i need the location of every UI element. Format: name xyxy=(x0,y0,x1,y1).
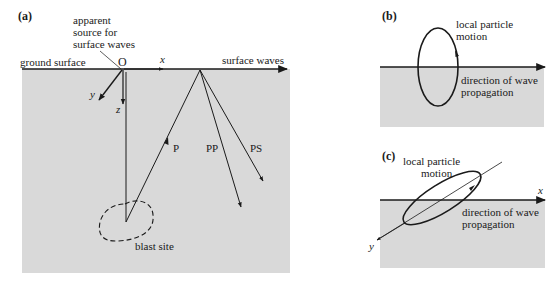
panel-a: (a) apparent source for surface waves gr… xyxy=(18,9,290,273)
motion-label-b-line2: motion xyxy=(456,30,488,42)
source-label-line1: apparent xyxy=(73,14,111,26)
origin-label: O xyxy=(118,55,127,69)
direction-label-c-line2: propagation xyxy=(462,218,515,230)
blast-site-label: blast site xyxy=(135,240,174,252)
z-axis-label: z xyxy=(115,103,121,115)
panel-a-label: (a) xyxy=(18,9,32,23)
direction-label-b-line2: propagation xyxy=(461,86,514,98)
motion-label-c-line1: local particle xyxy=(403,155,460,167)
panel-c: (c) x y local particle motion direction … xyxy=(368,149,545,268)
panel-c-label: (c) xyxy=(382,149,395,163)
source-label-line2: source for xyxy=(73,26,118,38)
motion-label-b-line1: local particle xyxy=(456,18,513,30)
panel-b-label: (b) xyxy=(382,9,397,23)
panel-b: (b) local particle motion direction of w… xyxy=(380,9,545,127)
x-axis-label-c: x xyxy=(537,184,543,196)
ray-pp-label: PP xyxy=(206,142,218,154)
ray-ps-label: PS xyxy=(250,142,262,154)
seismic-wave-diagram: (a) apparent source for surface waves gr… xyxy=(0,0,558,283)
motion-label-c-line2: motion xyxy=(421,167,453,179)
direction-label-b-line1: direction of wave xyxy=(461,74,538,86)
y-axis-label: y xyxy=(89,88,95,100)
y-axis-label-c: y xyxy=(368,240,374,252)
direction-label-c-line1: direction of wave xyxy=(462,206,539,218)
ground-surface-label: ground surface xyxy=(20,56,86,68)
source-label-line3: surface waves xyxy=(73,38,135,50)
x-axis-label: x xyxy=(159,53,165,65)
surface-waves-label: surface waves xyxy=(222,54,284,66)
ray-p-label: P xyxy=(173,142,179,154)
